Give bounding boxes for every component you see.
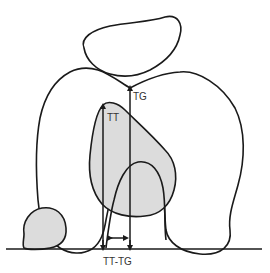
tt-label: TT (107, 112, 119, 123)
patella-outline (83, 16, 181, 76)
tt-tg-label: TT-TG (103, 256, 132, 267)
tg-label: TG (133, 91, 147, 102)
tt-tg-diagram: TG TT TT-TG (0, 0, 270, 273)
fibular-head (23, 208, 66, 250)
